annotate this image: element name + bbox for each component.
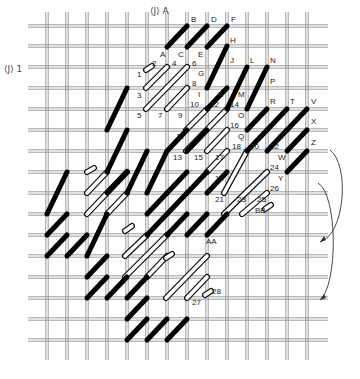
stitch-label: U xyxy=(278,132,284,141)
stitch-label: N xyxy=(270,56,276,65)
black-stitch xyxy=(127,319,147,340)
stitch-label: E xyxy=(198,50,203,59)
stitch-label: Y xyxy=(278,174,284,183)
black-stitch xyxy=(147,193,167,214)
stitch-label: M xyxy=(238,90,245,99)
stitch-label: T xyxy=(290,97,295,106)
black-stitch xyxy=(207,26,227,47)
black-stitch xyxy=(167,319,187,340)
black-stitch xyxy=(167,172,187,193)
black-stitch xyxy=(167,26,187,47)
stitch-label: 4 xyxy=(172,59,177,68)
black-stitch xyxy=(187,26,207,47)
white-stitch xyxy=(146,67,187,109)
black-stitch xyxy=(47,172,67,214)
black-stitch xyxy=(247,109,267,130)
start-marker: ⟨J⟩ 1 xyxy=(4,64,22,74)
stitch-label: 15 xyxy=(194,153,203,162)
black-stitch xyxy=(147,193,187,235)
stitch-label: H xyxy=(230,36,236,45)
stitch-label: F xyxy=(231,15,236,24)
stitch-label: P xyxy=(270,77,275,86)
stitch-label: S xyxy=(258,132,263,141)
stitch-label: BB xyxy=(255,206,266,215)
stitch-label: 21 xyxy=(215,195,224,204)
stitch-label: X xyxy=(311,117,317,126)
black-stitch xyxy=(247,67,267,109)
stitch-label: A xyxy=(160,50,166,59)
canvas-grid xyxy=(28,12,328,360)
stitch-label: AA xyxy=(206,237,217,246)
black-stitch xyxy=(87,214,107,256)
stitch-label: R xyxy=(270,97,276,106)
black-stitch xyxy=(127,277,147,298)
stitch-label: 12 xyxy=(210,100,219,109)
stitch-label: 11 xyxy=(176,132,185,141)
stitch-label: O xyxy=(238,111,244,120)
stitch-label: 22 xyxy=(270,142,279,151)
stitch-label: 10 xyxy=(190,100,199,109)
stitch-label: 18 xyxy=(232,142,241,151)
stitch-label: J xyxy=(230,56,234,65)
stitch-label: W xyxy=(278,153,286,162)
black-stitch xyxy=(207,46,227,88)
black-stitch xyxy=(67,235,87,256)
stitch-label: 25 xyxy=(257,195,266,204)
black-stitch xyxy=(127,298,147,319)
black-stitch xyxy=(287,130,307,151)
stitch-label: K xyxy=(218,90,224,99)
white-stitch xyxy=(87,172,107,193)
stitch-label: 5 xyxy=(137,111,142,120)
black-stitch xyxy=(187,130,207,151)
start-markers: ⟨J⟩ A⟨J⟩ 1 xyxy=(4,6,170,74)
stitch-label: 9 xyxy=(178,111,183,120)
stitch-label: 1 xyxy=(137,70,142,79)
stitch-label: L xyxy=(250,56,255,65)
stitch-label: 2 xyxy=(152,59,157,68)
stitch-label: 24 xyxy=(270,163,279,172)
stitch-label: V xyxy=(311,97,317,106)
stitch-label: Q xyxy=(238,132,244,141)
stitch-label: D xyxy=(211,15,217,24)
black-stitch xyxy=(107,172,127,193)
stitch-label: 16 xyxy=(230,121,239,130)
stitch-diagram: ABCDEFGHIJKLMNOPQRSTUVWXYZAABB1234567891… xyxy=(0,0,360,379)
stitch-label: I xyxy=(198,90,200,99)
black-stitch xyxy=(47,214,67,235)
stitch-label: 26 xyxy=(270,184,279,193)
black-stitch xyxy=(167,214,187,235)
white-stitch xyxy=(186,109,207,130)
stitch-label: G xyxy=(198,69,204,78)
stitch-label: 7 xyxy=(158,111,163,120)
stitch-label: 19 xyxy=(215,174,224,183)
black-stitch xyxy=(147,319,167,340)
stitch-label: 23 xyxy=(237,195,246,204)
white-stitch xyxy=(167,88,187,109)
stitch-label: 14 xyxy=(230,100,239,109)
black-stitch xyxy=(187,214,207,235)
black-stitch xyxy=(147,151,167,193)
black-stitch xyxy=(107,130,127,172)
stitch-label: C xyxy=(178,50,184,59)
start-marker: ⟨J⟩ A xyxy=(150,6,170,16)
stitch-label: 3 xyxy=(137,91,142,100)
black-stitch xyxy=(87,277,107,298)
stitch-label: 27 xyxy=(192,298,201,307)
stitch-label: 6 xyxy=(192,59,197,68)
black-stitch xyxy=(107,88,127,130)
black-stitch xyxy=(107,277,127,298)
white-stitch xyxy=(207,130,227,151)
stitch-label: Z xyxy=(311,138,316,147)
black-stitch xyxy=(287,151,307,172)
black-stitch xyxy=(207,214,227,235)
stitch-label: 28 xyxy=(212,287,221,296)
black-stitch xyxy=(87,256,107,277)
stitch-label: 17 xyxy=(215,153,224,162)
curved-arrow xyxy=(320,150,342,242)
black-stitch xyxy=(47,235,67,256)
stitch-label: 20 xyxy=(250,142,259,151)
white-stitch xyxy=(166,256,207,298)
black-stitch xyxy=(187,172,207,193)
white-stitch xyxy=(107,193,127,214)
direction-arrows xyxy=(318,150,342,300)
